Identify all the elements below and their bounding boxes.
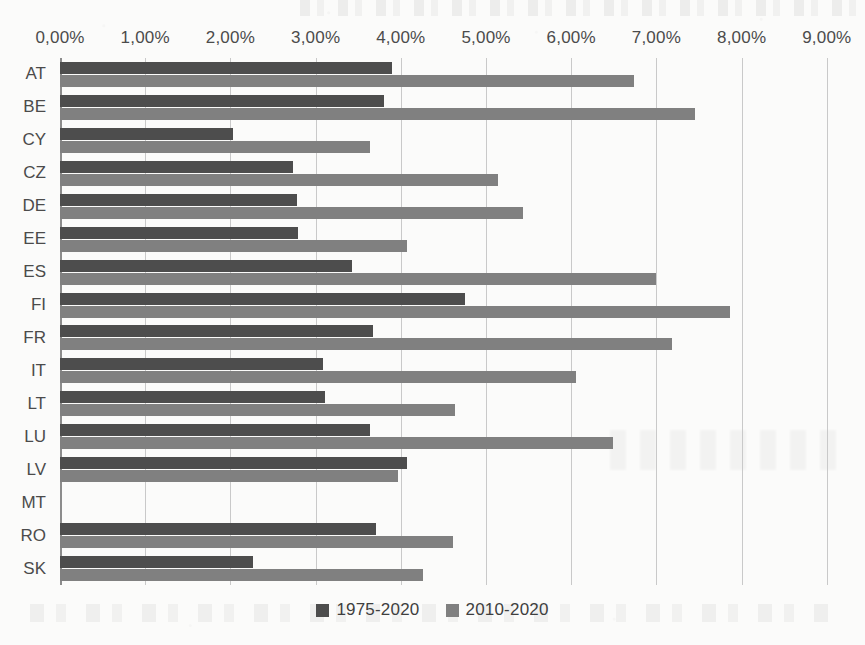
x-tick-label: 5,00%: [461, 28, 510, 48]
bar-group: [60, 322, 850, 355]
bar-group: [60, 91, 850, 124]
legend-label: 2010-2020: [466, 600, 549, 620]
legend-swatch-icon: [446, 604, 459, 617]
bar-group: [60, 256, 850, 289]
bar-de-series1: [60, 194, 297, 206]
bar-fr-series2: [60, 338, 672, 350]
bar-group: [60, 387, 850, 420]
x-tick-label: 9,00%: [802, 28, 851, 48]
legend-item-1[interactable]: 1975-2020: [316, 600, 419, 620]
bar-group: [60, 124, 850, 157]
ghost-text-top: [300, 0, 860, 16]
plot-area: [60, 58, 850, 585]
bar-group: [60, 519, 850, 552]
y-tick-label-cz: CZ: [23, 163, 46, 183]
bar-lu-series2: [60, 437, 613, 449]
bar-cz-series2: [60, 174, 498, 186]
y-tick-label-es: ES: [23, 262, 46, 282]
bar-at-series2: [60, 75, 634, 87]
bar-ro-series1: [60, 523, 376, 535]
bar-group: [60, 58, 850, 91]
bar-lt-series1: [60, 391, 325, 403]
legend-item-2[interactable]: 2010-2020: [446, 600, 549, 620]
x-tick-label: 8,00%: [717, 28, 766, 48]
y-axis-category-labels: ATBECYCZDEEEESFIFRITLTLULVMTROSK: [0, 58, 56, 585]
bar-at-series1: [60, 62, 392, 74]
bar-it-series2: [60, 371, 576, 383]
bar-cy-series1: [60, 128, 233, 140]
y-tick-label-ro: RO: [21, 526, 47, 546]
bar-cy-series2: [60, 141, 370, 153]
bar-chart: 0,00%1,00%2,00%3,00%4,00%5,00%6,00%7,00%…: [0, 0, 865, 645]
bar-de-series2: [60, 207, 523, 219]
bar-be-series1: [60, 95, 384, 107]
x-tick-label: 7,00%: [632, 28, 681, 48]
y-tick-label-mt: MT: [21, 493, 46, 513]
y-tick-label-it: IT: [31, 361, 46, 381]
bar-group: [60, 453, 850, 486]
bar-group: [60, 552, 850, 585]
x-tick-label: 1,00%: [121, 28, 170, 48]
bar-group: [60, 223, 850, 256]
bar-ee-series2: [60, 240, 407, 252]
y-tick-label-ee: EE: [23, 229, 46, 249]
bar-fi-series1: [60, 293, 465, 305]
bar-ro-series2: [60, 536, 453, 548]
bar-cz-series1: [60, 161, 293, 173]
bar-lv-series1: [60, 457, 407, 469]
chart-legend: 1975-20202010-2020: [0, 600, 865, 620]
y-tick-label-cy: CY: [22, 130, 46, 150]
y-tick-label-sk: SK: [23, 559, 46, 579]
bar-group: [60, 157, 850, 190]
y-tick-label-lt: LT: [27, 394, 46, 414]
y-tick-label-at: AT: [26, 64, 46, 84]
x-tick-label: 0,00%: [35, 28, 84, 48]
y-tick-label-fr: FR: [23, 328, 46, 348]
bar-sk-series2: [60, 569, 423, 581]
bar-be-series2: [60, 108, 695, 120]
bar-lv-series2: [60, 470, 398, 482]
y-tick-label-lu: LU: [24, 427, 46, 447]
bar-group: [60, 486, 850, 519]
bar-es-series2: [60, 273, 656, 285]
bar-fi-series2: [60, 306, 730, 318]
bar-fr-series1: [60, 325, 373, 337]
x-axis-tick-labels: 0,00%1,00%2,00%3,00%4,00%5,00%6,00%7,00%…: [0, 28, 865, 48]
x-tick-label: 4,00%: [376, 28, 425, 48]
bar-group: [60, 190, 850, 223]
y-tick-label-de: DE: [22, 196, 46, 216]
legend-label: 1975-2020: [336, 600, 419, 620]
bar-sk-series1: [60, 556, 253, 568]
bar-group: [60, 354, 850, 387]
bar-lu-series1: [60, 424, 370, 436]
x-tick-label: 6,00%: [547, 28, 596, 48]
y-tick-label-lv: LV: [26, 460, 46, 480]
bar-group: [60, 420, 850, 453]
bar-ee-series1: [60, 227, 298, 239]
bar-it-series1: [60, 358, 323, 370]
bar-group: [60, 289, 850, 322]
y-tick-label-be: BE: [23, 97, 46, 117]
legend-swatch-icon: [316, 604, 329, 617]
x-tick-label: 3,00%: [291, 28, 340, 48]
bar-es-series1: [60, 260, 352, 272]
bar-lt-series2: [60, 404, 455, 416]
y-tick-label-fi: FI: [31, 295, 46, 315]
x-tick-label: 2,00%: [206, 28, 255, 48]
